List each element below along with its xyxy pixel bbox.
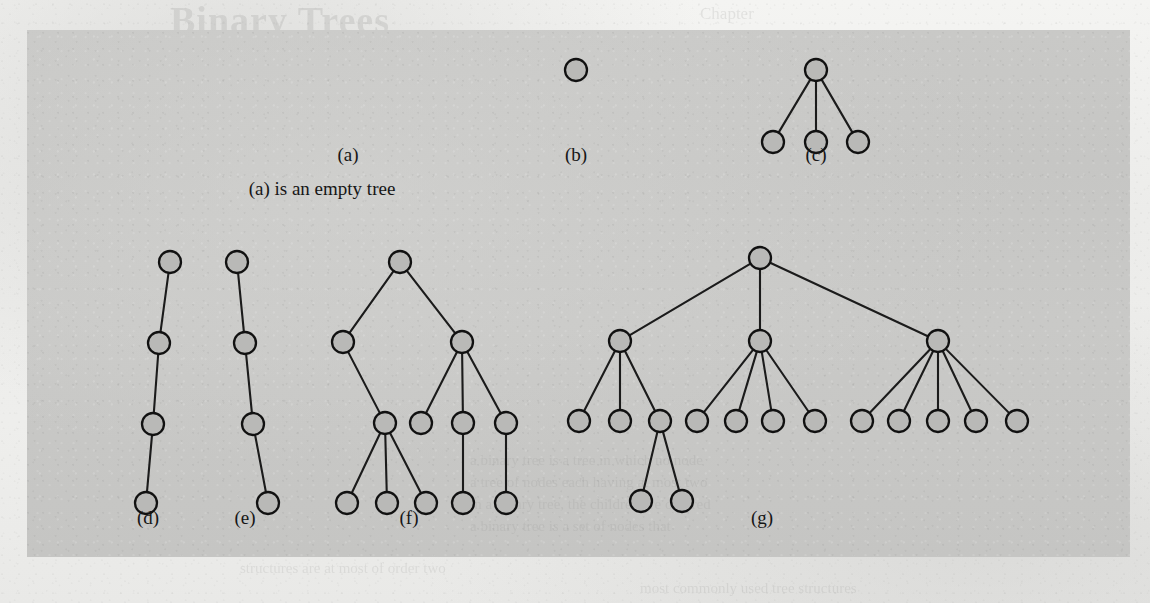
figure-label-c: (c) xyxy=(805,144,826,166)
figure-label-d: (d) xyxy=(137,507,159,529)
figure-label-b: (b) xyxy=(565,144,587,166)
figure-label-g: (g) xyxy=(751,507,773,529)
figure-label-a: (a) xyxy=(337,144,358,166)
bleed-through-line-6: most commonly used tree structures xyxy=(640,580,857,597)
scanned-page: Binary Trees Chapter a binary tree is a … xyxy=(0,0,1150,603)
bleed-through-line-5: structures are at most of order two xyxy=(240,560,446,577)
plate-grain-texture xyxy=(27,30,1130,557)
figure-plate xyxy=(27,30,1130,557)
figure-label-e: (e) xyxy=(234,507,255,529)
figure-label-f: (f) xyxy=(400,507,419,529)
bleed-through-subheading: Chapter xyxy=(700,4,754,24)
empty-tree-caption: (a) is an empty tree xyxy=(249,178,396,200)
